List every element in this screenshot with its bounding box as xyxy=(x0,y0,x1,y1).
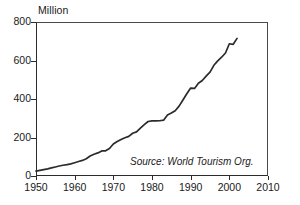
source-annotation: Source: World Tourism Org. xyxy=(130,156,254,167)
x-axis-tick-group: 1950196019701980199020002010 xyxy=(0,0,300,205)
x-axis-tick-mark xyxy=(191,176,192,180)
x-axis-tick-mark xyxy=(152,176,153,180)
x-axis-tick-mark xyxy=(229,176,230,180)
x-axis-tick-label: 2010 xyxy=(248,181,288,193)
x-axis-tick-label: 1970 xyxy=(93,181,133,193)
x-axis-tick-label: 1980 xyxy=(132,181,172,193)
x-axis-tick-mark xyxy=(113,176,114,180)
x-axis-tick-label: 1950 xyxy=(16,181,56,193)
x-axis-tick-label: 1990 xyxy=(171,181,211,193)
x-axis-tick-label: 2000 xyxy=(209,181,249,193)
tourism-line-chart: Million 0200400600800 195019601970198019… xyxy=(0,0,300,205)
x-axis-tick-mark xyxy=(268,176,269,180)
x-axis-tick-mark xyxy=(75,176,76,180)
x-axis-tick-label: 1960 xyxy=(55,181,95,193)
x-axis-tick-mark xyxy=(36,176,37,180)
